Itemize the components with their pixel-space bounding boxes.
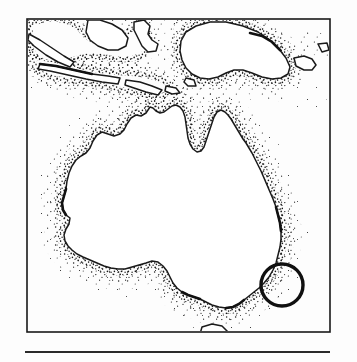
map-canvas: [0, 0, 357, 362]
caption-rule: [25, 351, 330, 353]
map-figure: Map of Australia and the Indonesian arch…: [0, 0, 357, 362]
